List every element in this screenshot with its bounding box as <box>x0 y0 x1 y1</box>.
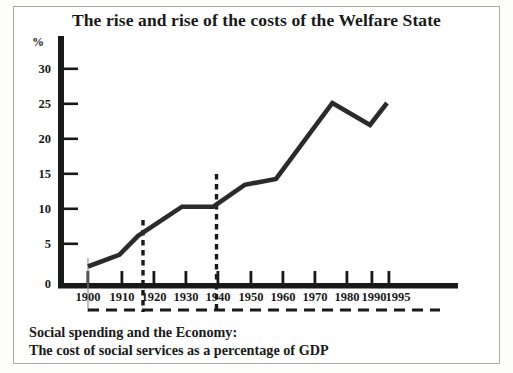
y-tick-label-5: 5 <box>45 237 51 251</box>
x-axis-ticks <box>87 271 391 283</box>
x-tick-label-1910: 1910 <box>110 290 135 304</box>
caption-line-2: The cost of social services as a percent… <box>29 341 479 359</box>
x-tick-label-1960: 1960 <box>271 290 296 304</box>
x-tick-label-1995: 1995 <box>386 290 411 304</box>
x-tick-label-1950: 1950 <box>239 290 264 304</box>
x-tick-label-1930: 1930 <box>174 290 199 304</box>
caption-line-1: Social spending and the Economy: <box>29 323 479 341</box>
y-axis-labels: % 30 25 20 15 10 5 0 <box>32 35 51 291</box>
x-tick-label-1920: 1920 <box>142 290 167 304</box>
y-axis-ticks <box>64 68 78 246</box>
data-series-social-spending <box>88 103 387 267</box>
y-axis-unit-label: % <box>32 35 44 49</box>
line-chart-svg: % 30 25 20 15 10 5 0 <box>0 0 513 373</box>
figure-root: The rise and rise of the costs of the We… <box>0 0 513 373</box>
x-tick-label-1970: 1970 <box>303 290 328 304</box>
x-axis-line <box>58 283 458 289</box>
y-axis-line <box>58 36 64 286</box>
chart-plot-area: % 30 25 20 15 10 5 0 <box>0 0 513 373</box>
y-tick-label-30: 30 <box>39 62 52 76</box>
y-tick-label-20: 20 <box>39 132 52 146</box>
y-tick-label-10: 10 <box>39 202 52 216</box>
x-axis-labels: 1900 1910 1920 1930 1940 1950 1960 1970 … <box>76 290 411 304</box>
y-tick-label-0: 0 <box>45 277 51 291</box>
x-tick-label-1980: 1980 <box>335 290 360 304</box>
y-tick-label-25: 25 <box>39 97 52 111</box>
figure-caption: Social spending and the Economy: The cos… <box>29 323 479 359</box>
y-tick-label-15: 15 <box>39 167 52 181</box>
x-tick-label-1990: 1990 <box>362 290 387 304</box>
